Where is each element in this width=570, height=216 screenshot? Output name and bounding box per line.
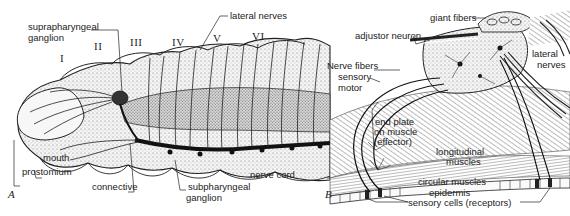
label-sensory: sensory <box>338 72 371 82</box>
segment-label-6: VI <box>252 30 265 42</box>
label-nerve-cord: nerve cord <box>250 170 295 180</box>
earthworm-nervous-system-figure: suprapharyngeal ganglion lateral nerves … <box>0 0 570 216</box>
label-lateral-nerves-a: lateral nerves <box>230 11 287 21</box>
segment-label-2: II <box>94 40 102 52</box>
label-subpharyngeal-ganglion: ganglion <box>186 193 222 203</box>
label-mouth: mouth <box>43 153 69 163</box>
label-suprapharyngeal: suprapharyngeal <box>28 22 99 32</box>
segment-label-5: V <box>213 32 221 44</box>
label-subpharyngeal: subpharyngeal <box>188 182 250 192</box>
panel-letter-a: A <box>8 188 15 200</box>
label-circular-muscles: circular muscles <box>418 177 486 187</box>
segment-label-4: IV <box>172 36 185 48</box>
label-sensory-cells: sensory cells (receptors) <box>408 198 511 208</box>
label-motor: motor <box>338 83 362 93</box>
segment-label-3: III <box>130 36 143 48</box>
label-nerves-b: nerves <box>537 60 566 70</box>
label-prostomium: prostomium <box>22 167 72 177</box>
label-nerve-fibers: Nerve fibers <box>327 61 378 71</box>
label-connective: connective <box>92 182 137 192</box>
panel-letter-b: B <box>325 188 332 200</box>
segment-label-1: I <box>60 52 64 64</box>
label-adjustor-neuron: adjustor neuron <box>355 31 421 41</box>
label-muscles: muscles <box>446 157 481 167</box>
label-suprapharyngeal-ganglion: ganglion <box>28 33 64 43</box>
label-giant-fibers: giant fibers <box>430 13 476 23</box>
label-lateral-b: lateral <box>532 49 558 59</box>
label-effector: (effector) <box>374 137 412 147</box>
